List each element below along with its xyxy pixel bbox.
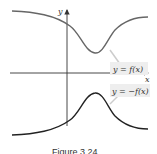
label-pointer-f — [110, 50, 120, 64]
label-f: y = f(x) — [112, 65, 143, 74]
curve-f — [12, 11, 148, 53]
label-neg-f: y = −f(x) — [111, 87, 149, 96]
graph-figure: x y y = f(x) y = −f(x) Figure 3.24 — [0, 0, 157, 154]
y-axis-label: y — [57, 7, 63, 16]
figure-caption: Figure 3.24 — [52, 147, 98, 154]
label-pointer-neg-f — [110, 96, 118, 104]
curve-neg-f — [12, 93, 148, 135]
x-axis-label: x — [145, 75, 150, 84]
